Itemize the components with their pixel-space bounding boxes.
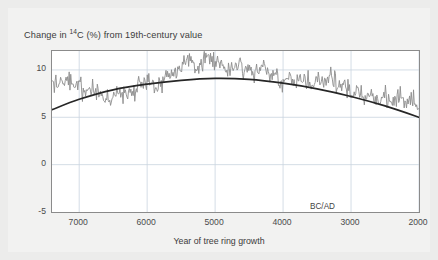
figure-card: Change in 14C (%) from 19th-century valu… bbox=[8, 8, 430, 252]
y-tick-label: 5 bbox=[20, 111, 46, 121]
noise-series-line bbox=[52, 51, 419, 109]
vertical-gridlines bbox=[79, 51, 419, 212]
y-tick-label: 10 bbox=[20, 63, 46, 73]
x-tick-label: 4000 bbox=[262, 217, 302, 227]
chart-title: Change in 14C (%) from 19th-century valu… bbox=[24, 28, 202, 40]
plot-frame bbox=[51, 50, 420, 213]
isotope-element: C bbox=[77, 30, 84, 40]
isotope-superscript: 14 bbox=[69, 28, 77, 35]
x-tick-label: 6000 bbox=[126, 217, 166, 227]
chart-title-prefix: Change in bbox=[24, 30, 69, 40]
y-tick-label: 0 bbox=[20, 158, 46, 168]
x-tick-label: 7000 bbox=[58, 217, 98, 227]
y-tick-label: -5 bbox=[20, 206, 46, 216]
chart-svg bbox=[52, 51, 419, 212]
x-axis-title: Year of tree ring growth bbox=[8, 236, 430, 246]
era-annotation: BC/AD bbox=[310, 202, 335, 211]
plot-area bbox=[51, 50, 420, 213]
x-tick-label: 2000 bbox=[398, 217, 438, 227]
x-tick-label: 3000 bbox=[330, 217, 370, 227]
chart-title-suffix: (%) from 19th-century value bbox=[84, 30, 203, 40]
horizontal-gridlines bbox=[52, 70, 419, 165]
x-tick-label: 5000 bbox=[194, 217, 234, 227]
